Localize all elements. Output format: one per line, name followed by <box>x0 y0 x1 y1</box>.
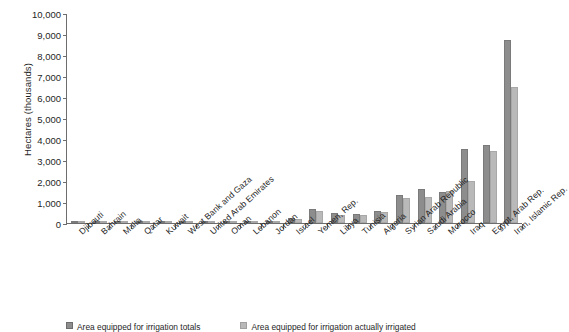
bar-group <box>414 14 436 223</box>
bar-group <box>479 14 501 223</box>
legend-swatch-irrigated <box>240 322 247 329</box>
bar-group <box>370 14 392 223</box>
legend-swatch-equipped <box>66 322 73 329</box>
legend-item: Area equipped for irrigation actually ir… <box>240 322 415 332</box>
bar-group <box>154 14 176 223</box>
bar-irrigated <box>316 211 323 223</box>
y-axis-title: Hectares (thousands) <box>22 25 33 195</box>
bar-group <box>500 14 522 223</box>
y-tick-label: 10,000 <box>32 9 67 20</box>
bar-group <box>284 14 306 223</box>
x-axis-labels: DjiboutiBahrainMaltaQatarKuwaitWest Bank… <box>66 229 522 313</box>
bar-group <box>197 14 219 223</box>
legend-label: Area equipped for irrigation totals <box>77 322 200 332</box>
bar-irrigated <box>511 87 518 224</box>
legend-label: Area equipped for irrigation actually ir… <box>251 322 415 332</box>
bar-group <box>132 14 154 223</box>
bar-equipped <box>504 40 511 223</box>
legend-item: Area equipped for irrigation totals <box>66 322 200 332</box>
bar-group <box>327 14 349 223</box>
bar-group <box>305 14 327 223</box>
bar-irrigated <box>490 151 497 223</box>
chart-legend: Area equipped for irrigation totalsArea … <box>66 322 527 332</box>
bar-group <box>392 14 414 223</box>
bar-equipped <box>483 145 490 223</box>
bar-group <box>262 14 284 223</box>
bar-group <box>110 14 132 223</box>
bar-group <box>175 14 197 223</box>
bar-group <box>67 14 89 223</box>
bar-equipped <box>71 221 78 223</box>
bar-group <box>349 14 371 223</box>
bar-group <box>457 14 479 223</box>
bar-group <box>89 14 111 223</box>
